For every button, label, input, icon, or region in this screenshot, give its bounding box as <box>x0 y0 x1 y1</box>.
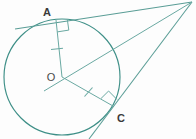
radius-oc <box>62 77 113 106</box>
right-angle-marker-c <box>101 91 117 100</box>
tangent-line-a <box>15 2 192 29</box>
label-point-o: O <box>47 71 56 83</box>
tangent-line-c <box>89 2 192 139</box>
tick-mark-oa <box>51 48 63 49</box>
label-point-a: A <box>43 6 51 18</box>
geometry-figure: A O C <box>0 0 196 139</box>
line-p-to-o <box>44 2 192 91</box>
label-point-c: C <box>117 112 125 124</box>
tick-mark-oc <box>85 88 93 97</box>
geometry-canvas: A O C <box>0 0 196 139</box>
